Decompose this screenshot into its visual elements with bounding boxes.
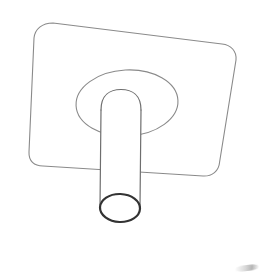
line-drawing [0,0,265,279]
stand-post-fill [100,90,141,209]
sketch-canvas [0,0,265,279]
